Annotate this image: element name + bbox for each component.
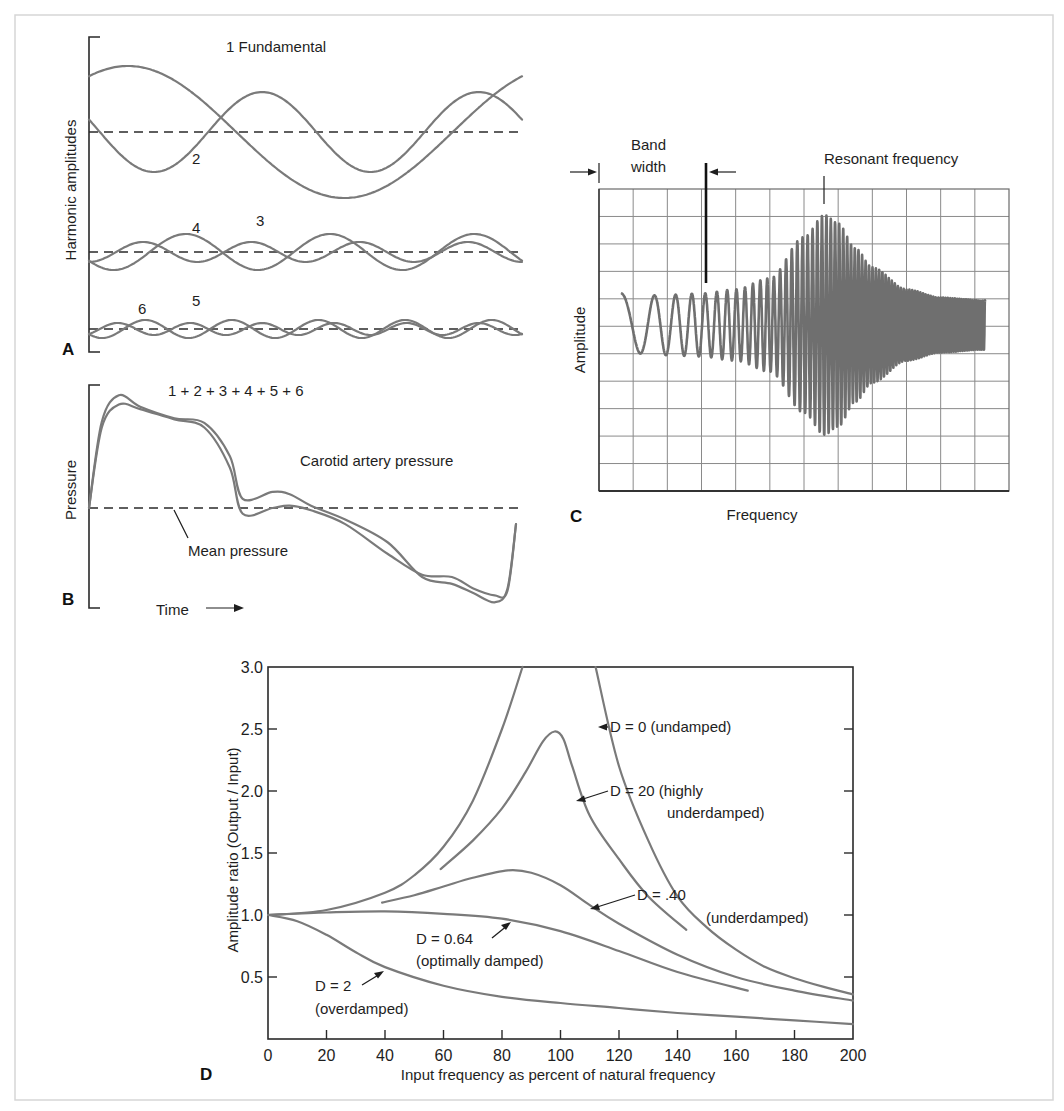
harmonic-5-label: 5 [192, 292, 200, 309]
x-tick-label: 140 [664, 1047, 691, 1064]
x-tick-label: 80 [493, 1047, 511, 1064]
annotation-d064-line1: D = 0.64 [416, 930, 473, 947]
panel-d: 0204060801001201401601802000.51.01.52.02… [200, 659, 866, 1084]
panel-a-axis-bracket [89, 37, 100, 352]
annotation-d064-line2: (optimally damped) [416, 952, 544, 969]
resonant-frequency-label: Resonant frequency [824, 150, 959, 167]
annotation-d20-line1: D = 20 (highly [610, 782, 703, 799]
x-tick-label: 160 [723, 1047, 750, 1064]
mean-pressure-label: Mean pressure [188, 542, 288, 559]
annotation-d20-line2: underdamped) [667, 804, 765, 821]
y-tick-label: 1.0 [241, 907, 263, 924]
annotation-d0: D = 0 (undamped) [610, 718, 731, 735]
y-tick-label: 2.5 [241, 721, 263, 738]
annotation-d2-line2: (overdamped) [315, 1000, 408, 1017]
panel-a-title: 1 Fundamental [226, 38, 326, 55]
y-tick-label: 1.5 [241, 845, 263, 862]
panel-d-letter: D [200, 1065, 212, 1084]
panel-b-xlabel: Time [156, 601, 189, 618]
annotation-d40-line1: D = .40 [637, 886, 686, 903]
bandwidth-label-line1: Band [631, 136, 666, 153]
curve-d0-undamped-left [268, 667, 523, 915]
figure-frame [15, 15, 1053, 1100]
bandwidth-left-arrow-icon [588, 169, 597, 176]
curve-d0-undamped-right [596, 667, 853, 994]
frequency-response-waveform [621, 216, 985, 435]
panel-a-ylabel: Harmonic amplitudes [62, 120, 79, 261]
x-tick-label: 20 [318, 1047, 336, 1064]
panel-b-ylabel: Pressure [62, 460, 79, 520]
annotation-d0-arrow-icon [598, 724, 607, 731]
time-arrow-icon [234, 604, 244, 612]
x-tick-label: 200 [840, 1047, 867, 1064]
harmonic-4-label: 4 [192, 219, 200, 236]
panel-c-ylabel: Amplitude [571, 307, 588, 374]
mean-pressure-pointer [174, 510, 188, 538]
carotid-pressure-label: Carotid artery pressure [300, 452, 453, 469]
x-tick-label: 40 [376, 1047, 394, 1064]
harmonic-3-label: 3 [256, 212, 264, 229]
annotation-d2-line1: D = 2 [315, 977, 351, 994]
panel-d-plot-border [268, 667, 853, 1039]
panel-c-xlabel: Frequency [727, 506, 798, 523]
panel-c: Amplitude Frequency Band width Resonant … [570, 136, 1009, 526]
panel-c-letter: C [570, 507, 582, 526]
harmonic-6-label: 6 [138, 300, 146, 317]
bandwidth-label-line2: width [630, 158, 666, 175]
y-tick-label: 2.0 [241, 783, 263, 800]
x-tick-label: 120 [606, 1047, 633, 1064]
panel-d-xlabel: Input frequency as percent of natural fr… [401, 1066, 716, 1083]
panel-d-ylabel: Amplitude ratio (Output / Input) [224, 747, 241, 952]
panel-b-letter: B [62, 590, 74, 609]
carotid-measured-curve [89, 395, 516, 602]
panel-a-letter: A [62, 340, 74, 359]
figure-canvas: Harmonic amplitudes 1 Fundamental 2 3 4 … [0, 0, 1064, 1111]
x-tick-label: 60 [435, 1047, 453, 1064]
annotation-d40-arrow-shaft [594, 895, 635, 908]
bandwidth-right-arrow-icon [709, 169, 718, 176]
y-tick-label: 0.5 [241, 969, 263, 986]
annotation-d40-line2: (underdamped) [706, 909, 809, 926]
x-tick-label: 100 [547, 1047, 574, 1064]
panel-b: Pressure 1 + 2 + 3 + 4 + 5 + 6 Carotid a… [62, 382, 522, 618]
harmonic-2-label: 2 [192, 150, 200, 167]
panel-b-title: 1 + 2 + 3 + 4 + 5 + 6 [168, 382, 304, 399]
panel-a: Harmonic amplitudes 1 Fundamental 2 3 4 … [62, 37, 522, 359]
x-tick-label: 0 [264, 1047, 273, 1064]
y-tick-label: 3.0 [241, 659, 263, 676]
x-tick-label: 180 [781, 1047, 808, 1064]
